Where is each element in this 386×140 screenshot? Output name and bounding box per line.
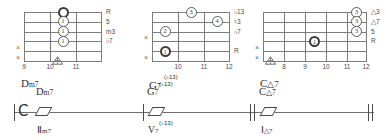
chord-symbol-superscript: (♭13) xyxy=(159,81,173,87)
interval-label: 5 xyxy=(371,29,375,36)
finger-dot: 1 xyxy=(58,36,69,47)
muted-string-marker: × xyxy=(144,34,148,41)
finger-dot: 1 xyxy=(160,46,171,57)
muted-string-marker: × xyxy=(16,54,20,61)
roman-numeral: V7 xyxy=(148,126,158,137)
interval-label: ♭7 xyxy=(106,38,113,45)
chord-superscript: (♭13) xyxy=(164,74,178,80)
chord-symbol: Dm7 xyxy=(36,87,53,99)
roman-numeral-superscript: (♭13) xyxy=(159,120,173,126)
fret-number: 9 xyxy=(298,64,312,71)
muted-string-marker: × xyxy=(255,44,259,51)
fret-number: 12 xyxy=(359,64,373,71)
barline-end xyxy=(372,104,373,121)
barline xyxy=(250,104,251,121)
chord-symbol: G7 xyxy=(147,87,158,99)
position-marker-icon xyxy=(264,56,277,65)
finger-dot: 1 xyxy=(309,36,320,47)
barline xyxy=(143,104,144,121)
muted-string-marker: × xyxy=(16,44,20,51)
interval-label: ♮3 xyxy=(234,19,241,26)
staff-line xyxy=(14,112,374,113)
roman-numeral: Ⅰ△7 xyxy=(261,126,273,137)
barline-end xyxy=(368,104,369,121)
time-signature-common: C xyxy=(18,104,28,119)
slash-notation xyxy=(260,107,278,116)
finger-dot: 3 xyxy=(186,7,197,18)
fret-number: 12 xyxy=(222,64,236,71)
interval-label: R xyxy=(371,38,376,45)
fret-number: 8 xyxy=(277,64,291,71)
muted-string-marker: × xyxy=(144,54,148,61)
chord-progression-chart: 1 1 1 R 5 m3 ♭7 × × 9 10 11 Dm7 xyxy=(0,0,386,140)
slash-notation xyxy=(148,107,166,116)
fret-number: 10 xyxy=(171,64,185,71)
interval-label: ♭13 xyxy=(234,9,244,16)
interval-label: m3 xyxy=(106,29,115,36)
interval-label: ♭7 xyxy=(234,29,241,36)
muted-string-marker: × xyxy=(255,54,259,61)
interval-label: △3 xyxy=(371,9,380,16)
interval-label: R xyxy=(234,48,239,55)
fret-number: 11 xyxy=(69,64,83,71)
fret-number: 11 xyxy=(197,64,211,71)
fret-number: 9 xyxy=(17,64,31,71)
interval-label: 5 xyxy=(106,19,110,26)
chord-symbol: C△7 xyxy=(259,87,276,99)
fret-number: 11 xyxy=(340,64,354,71)
roman-numeral: Ⅱm7 xyxy=(37,126,51,137)
barline xyxy=(254,104,255,121)
slash-notation xyxy=(35,107,53,116)
fret-number: 10 xyxy=(43,64,57,71)
barline-start xyxy=(14,104,15,121)
finger-dot: 4 xyxy=(212,16,223,27)
interval-label: △7 xyxy=(371,19,380,26)
interval-label: R xyxy=(106,9,111,16)
finger-dot: 2 xyxy=(160,26,171,37)
fret-number: 10 xyxy=(319,64,333,71)
